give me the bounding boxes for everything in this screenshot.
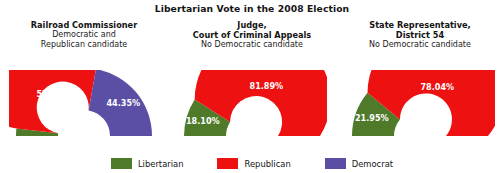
chart-root: Libertarian Vote in the 2008 Election Ra… [0,0,504,173]
legend-label: Democrat [352,159,393,169]
panel-heading: State Representative, District 54 [369,20,470,40]
slice-value-label: 18.10% [186,116,220,126]
gauge-chart: 18.10%81.89% [168,70,336,140]
legend-swatch-republican [217,158,238,169]
legend-label: Republican [244,159,290,169]
gauge-panel: Railroad CommissionerDemocratic and Repu… [0,20,168,140]
chart-title: Libertarian Vote in the 2008 Election [0,3,504,14]
slice-value-label: 21.95% [355,113,389,123]
legend-item: Libertarian [111,158,184,169]
legend-item: Democrat [325,158,393,169]
gauge-chart: 21.95%78.04% [336,70,504,140]
legend-label: Libertarian [138,159,184,169]
slice-value-label: 52.13% [36,89,70,99]
gauge-panel: Judge, Court of Criminal AppealsNo Democ… [168,20,336,140]
gauge-panel: State Representative, District 54No Demo… [336,20,504,140]
gauge-slice-republican [9,70,96,133]
slice-value-label: 44.35% [106,98,140,108]
slice-value-label: 81.89% [250,81,284,91]
panel-heading: Judge, Court of Criminal Appeals [193,20,311,40]
legend-swatch-libertarian [111,158,132,169]
gauge-chart: 3.51%52.13%44.35% [0,70,168,140]
slice-value-label: 78.04% [420,82,454,92]
slice-value-label: 3.51% [17,141,45,143]
chart-legend: LibertarianRepublicanDemocrat [0,158,504,169]
legend-item: Republican [217,158,290,169]
panel-heading: Railroad Commissioner [31,20,137,30]
gauge-panel-group: Railroad CommissionerDemocratic and Repu… [0,20,504,140]
panel-subtitle: No Democratic candidate [369,40,471,50]
panel-subtitle: Democratic and Republican candidate [41,30,127,50]
panel-subtitle: No Democratic candidate [201,40,303,50]
legend-swatch-democrat [325,158,346,169]
